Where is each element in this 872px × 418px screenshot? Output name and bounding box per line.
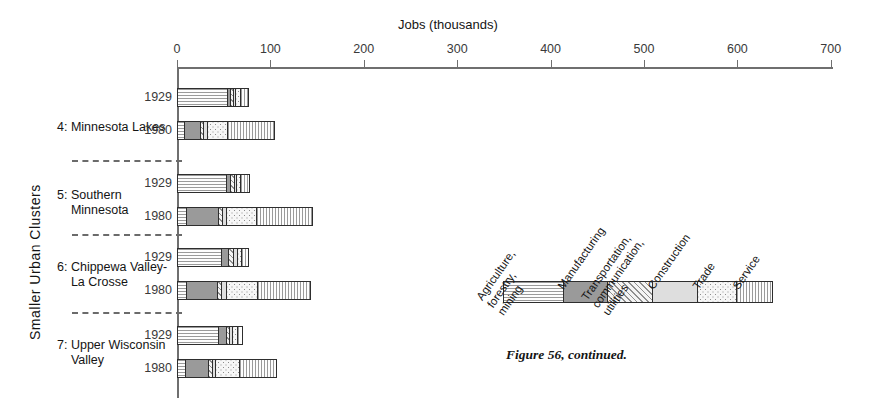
- bar-segment: [219, 327, 226, 344]
- stacked-bar: [177, 359, 277, 378]
- bar-segment: [178, 327, 219, 344]
- bar-segment: [208, 122, 229, 139]
- stacked-bar: [177, 281, 311, 300]
- bar-segment: [178, 282, 187, 299]
- stacked-bar: [177, 326, 243, 345]
- x-axis-tick-label: 500: [619, 42, 669, 56]
- bar-segment: [258, 282, 309, 299]
- bar-year-label: 1980: [118, 209, 172, 223]
- x-axis-tick-label: 600: [712, 42, 762, 56]
- bar-segment: [241, 175, 248, 192]
- bar-segment: [186, 360, 208, 377]
- y-axis-title: Smaller Urban Clusters: [27, 184, 43, 340]
- legend-label: Agriculture, forestry, mining: [474, 248, 539, 318]
- bar-segment: [240, 360, 276, 377]
- bar-segment: [222, 249, 229, 266]
- bar-year-label: 1980: [118, 283, 172, 297]
- bar-segment: [216, 360, 239, 377]
- y-axis-line: [177, 68, 179, 398]
- group-divider: [72, 160, 182, 162]
- bar-segment: [178, 122, 185, 139]
- bar-segment: [187, 208, 219, 225]
- stacked-bar: [177, 174, 250, 193]
- bar-segment: [185, 122, 201, 139]
- bar-segment: [178, 89, 228, 106]
- bar-segment: [178, 208, 187, 225]
- bar-segment: [187, 282, 218, 299]
- x-axis-tick-label: 300: [432, 42, 482, 56]
- x-axis-tick-label: 100: [245, 42, 295, 56]
- group-divider: [72, 234, 182, 236]
- bar-segment: [238, 327, 242, 344]
- bar-segment: [227, 282, 259, 299]
- figure-caption: Figure 56, continued.: [506, 347, 627, 363]
- bar-segment: [257, 208, 311, 225]
- x-axis-title: Jobs (thousands): [398, 17, 498, 32]
- stacked-bar: [177, 248, 249, 267]
- bar-segment: [228, 122, 274, 139]
- stacked-bar: [177, 121, 275, 140]
- bar-year-label: 1929: [118, 250, 172, 264]
- bar-year-label: 1980: [118, 123, 172, 137]
- x-axis-line: [177, 67, 833, 69]
- x-axis-tick-label: 200: [339, 42, 389, 56]
- bar-segment: [178, 249, 222, 266]
- stacked-bar: [177, 88, 249, 107]
- figure-container: Jobs (thousands) 0100200300400500600700 …: [0, 0, 872, 418]
- stacked-bar: [177, 207, 313, 226]
- x-axis-tick-label: 400: [526, 42, 576, 56]
- x-axis-tick-label: 700: [806, 42, 856, 56]
- group-divider: [72, 312, 182, 314]
- bar-year-label: 1929: [118, 328, 172, 342]
- x-axis-tick-label: 0: [152, 42, 202, 56]
- bar-year-label: 1980: [118, 361, 172, 375]
- bar-segment: [227, 208, 257, 225]
- bar-segment: [178, 360, 186, 377]
- bar-segment: [178, 175, 227, 192]
- bar-year-label: 1929: [118, 90, 172, 104]
- bar-segment: [242, 249, 248, 266]
- bar-year-label: 1929: [118, 176, 172, 190]
- bar-segment: [241, 89, 248, 106]
